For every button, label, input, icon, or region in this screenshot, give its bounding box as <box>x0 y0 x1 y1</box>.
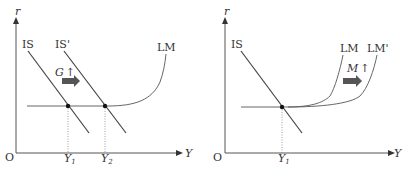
diagram-fiscal: r Y O IS IS' LM G↑ Y1 Y2 <box>5 5 194 166</box>
y-axis-label: r <box>15 5 21 18</box>
lm-label: LM <box>340 42 359 55</box>
lm-prime-label: LM' <box>367 42 389 55</box>
is-prime-curve <box>64 51 126 133</box>
x-axis-label: Y <box>185 147 194 160</box>
lm-curve <box>241 55 343 107</box>
x-axis-arrow-icon <box>176 150 183 156</box>
origin-label: O <box>5 151 14 164</box>
is-label: IS <box>231 38 243 51</box>
origin-label: O <box>213 151 222 164</box>
m-increase-label: M↑ <box>346 62 369 75</box>
y1-tick-label: Y1 <box>278 152 290 166</box>
is-curve <box>241 51 302 133</box>
y1-tick-label: Y1 <box>64 152 76 166</box>
lm-curve <box>27 54 166 106</box>
equilibrium-point <box>280 105 284 109</box>
is-curve <box>28 51 89 133</box>
x-axis-label: Y <box>394 147 403 160</box>
shift-right-arrow-icon <box>343 75 362 87</box>
equilibrium-point-2 <box>103 104 107 108</box>
y-axis-label: r <box>224 5 230 18</box>
equilibrium-point-1 <box>66 104 70 108</box>
islm-diagrams: r Y O IS IS' LM G↑ Y1 Y2 <box>0 0 406 171</box>
y2-tick-label: Y2 <box>101 152 113 166</box>
lm-label: LM <box>157 41 176 54</box>
is-prime-label: IS' <box>55 38 70 51</box>
diagram-monetary: r Y O IS LM LM' M↑ Y1 <box>213 5 403 166</box>
y-axis-arrow-icon <box>13 17 19 24</box>
is-label: IS <box>22 38 34 51</box>
y-axis-arrow-icon <box>222 17 228 24</box>
g-increase-label: G↑ <box>55 66 75 79</box>
